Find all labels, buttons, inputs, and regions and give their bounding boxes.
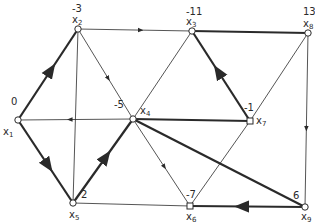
edge-x4-x6: [133, 119, 190, 206]
node-value-x2: -3: [72, 4, 82, 14]
arrowhead-icon: [47, 164, 48, 166]
node-value-x8: 13: [303, 7, 315, 17]
node-value-x9: 6: [293, 191, 299, 201]
node-x9: [302, 204, 308, 210]
edge-x7-x3: [192, 31, 250, 121]
arrowhead-icon: [163, 165, 164, 167]
edge-x1-x5: [18, 120, 73, 203]
node-x1: [15, 117, 21, 123]
node-label-x1: x1: [3, 127, 13, 139]
edge-x2-x3: [78, 29, 192, 31]
edge-x2-x5: [73, 29, 78, 203]
edge-x5-x6: [73, 203, 190, 206]
arrowhead-icon: [218, 72, 219, 74]
edge-x4-x1: [18, 119, 133, 120]
node-x5: [70, 200, 76, 206]
edge-x8-x7: [250, 33, 308, 121]
arrowhead-icon: [107, 77, 108, 79]
node-value-x5: 2: [81, 190, 87, 200]
node-x4: [130, 116, 136, 122]
node-label-x8: x8: [303, 19, 313, 31]
edge-x7-x6: [190, 121, 250, 206]
node-x7: [247, 118, 253, 124]
node-x6: [187, 203, 193, 209]
edge-x4-x9: [133, 119, 305, 207]
arrowhead-icon: [50, 70, 51, 72]
node-value-x6: -7: [186, 190, 196, 200]
edge-x4-x7: [133, 119, 250, 121]
node-label-x2: x2: [72, 15, 82, 27]
node-value-x1: 0: [11, 97, 17, 107]
node-label-x9: x9: [301, 212, 311, 222]
node-label-x6: x6: [186, 212, 196, 222]
node-label-x4: x4: [140, 106, 150, 118]
edge-x2-x4: [78, 29, 133, 119]
node-label-x7: x7: [256, 116, 266, 128]
edge-x1-x2: [18, 29, 78, 120]
arrowhead-icon: [105, 157, 106, 159]
graph-canvas: [0, 0, 315, 222]
edge-x9-x6: [190, 206, 305, 207]
node-value-x7: -1: [244, 103, 254, 113]
edge-x3-x8: [192, 31, 308, 33]
node-label-x3: x3: [186, 17, 196, 29]
node-value-x4: -5: [114, 100, 124, 110]
node-label-x5: x5: [69, 210, 79, 222]
edge-x8-x9: [305, 33, 308, 207]
